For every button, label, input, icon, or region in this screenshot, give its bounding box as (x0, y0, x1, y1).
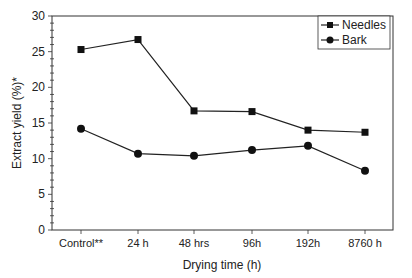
x-tick-label: 24 h (127, 237, 148, 249)
y-axis: 051015202530 (32, 9, 54, 237)
x-axis-label: Drying time (h) (183, 258, 262, 272)
series-line (81, 40, 365, 133)
legend: NeedlesBark (318, 16, 390, 49)
chart-canvas: 051015202530 Control**24 h48 hrs96h192h8… (0, 0, 412, 278)
data-point-square (249, 108, 256, 115)
data-point-circle (190, 152, 198, 160)
data-point-circle (77, 125, 85, 133)
x-tick-label: 8760 h (348, 237, 382, 249)
data-point-square (362, 129, 369, 136)
y-tick-label: 0 (38, 223, 45, 237)
legend-circle-marker-icon (327, 37, 334, 44)
data-point-square (135, 36, 142, 43)
data-point-circle (304, 142, 312, 150)
series-needles (78, 36, 369, 136)
x-tick-label: Control** (59, 237, 104, 249)
data-point-circle (361, 167, 369, 175)
legend-square-marker-icon (327, 22, 333, 28)
series-group (77, 36, 369, 175)
x-tick-label: 96h (243, 237, 261, 249)
data-point-circle (134, 150, 142, 158)
legend-label: Bark (342, 33, 368, 47)
series-bark (77, 125, 369, 175)
y-tick-label: 20 (32, 80, 46, 94)
data-point-circle (248, 146, 256, 154)
series-line (81, 129, 365, 171)
x-axis: Control**24 h48 hrs96h192h8760 h (59, 230, 382, 249)
y-tick-label: 30 (32, 9, 46, 23)
y-tick-label: 5 (38, 187, 45, 201)
line-chart: 051015202530 Control**24 h48 hrs96h192h8… (0, 0, 412, 278)
y-axis-label: Extract yield (%)* (10, 77, 24, 169)
y-tick-label: 25 (32, 45, 46, 59)
data-point-square (78, 46, 85, 53)
y-tick-label: 10 (32, 152, 46, 166)
legend-label: Needles (342, 18, 386, 32)
x-tick-label: 48 hrs (179, 237, 210, 249)
x-tick-label: 192h (296, 237, 320, 249)
data-point-square (305, 127, 312, 134)
data-point-square (191, 107, 198, 114)
y-tick-label: 15 (32, 116, 46, 130)
